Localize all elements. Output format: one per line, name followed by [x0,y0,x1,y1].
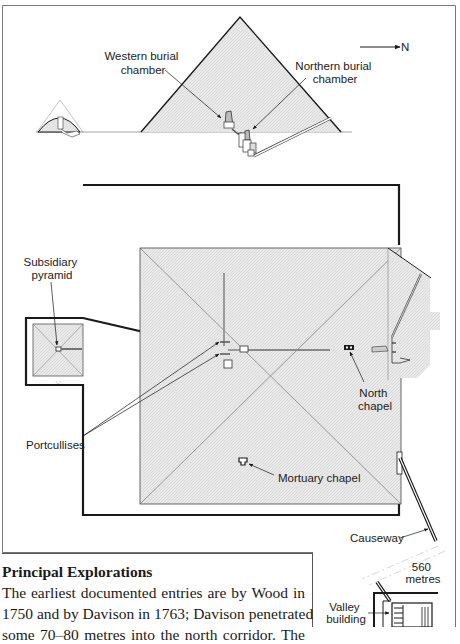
north-label: N [401,41,409,53]
subsidiary-pyramid-plan: ·.· [33,324,83,385]
main-pyramid-section [141,17,341,156]
causeway-label: Causeway [350,532,404,544]
section-view: Western burial chamber Northern burial c… [36,17,409,156]
svg-text:·.·: ·.· [55,378,61,385]
mortuary-chapel-label: Mortuary chapel [278,472,360,484]
section-heading: Principal Explorations [2,563,152,581]
subsidiary-pyramid-label: Subsidiary pyramid [24,256,81,281]
north-arrow-icon: N [360,41,409,53]
valley-building [374,593,438,627]
subsidiary-pyramid-section [37,100,83,137]
body-line: some 70–80 metres into the north corrido… [2,624,305,644]
portcullises-label: Portcullises [26,439,85,451]
northern-chamber-label: Northern burial chamber [295,60,374,85]
causeway-length-label: 560 metres [405,561,440,585]
body-line: 1750 and by Davison in 1763; Davison pen… [2,603,305,624]
causeway-leader [400,529,428,538]
section-body: The earliest documented entries are by W… [2,582,305,644]
north-chapel-icon [344,345,354,350]
main-pyramid-plan [140,248,401,504]
valley-building-label: Valley building [326,601,366,625]
western-chamber-label: Western burial chamber [104,50,181,76]
body-line: The earliest documented entries are by W… [2,582,305,603]
north-chapel-label: North chapel [358,387,392,412]
